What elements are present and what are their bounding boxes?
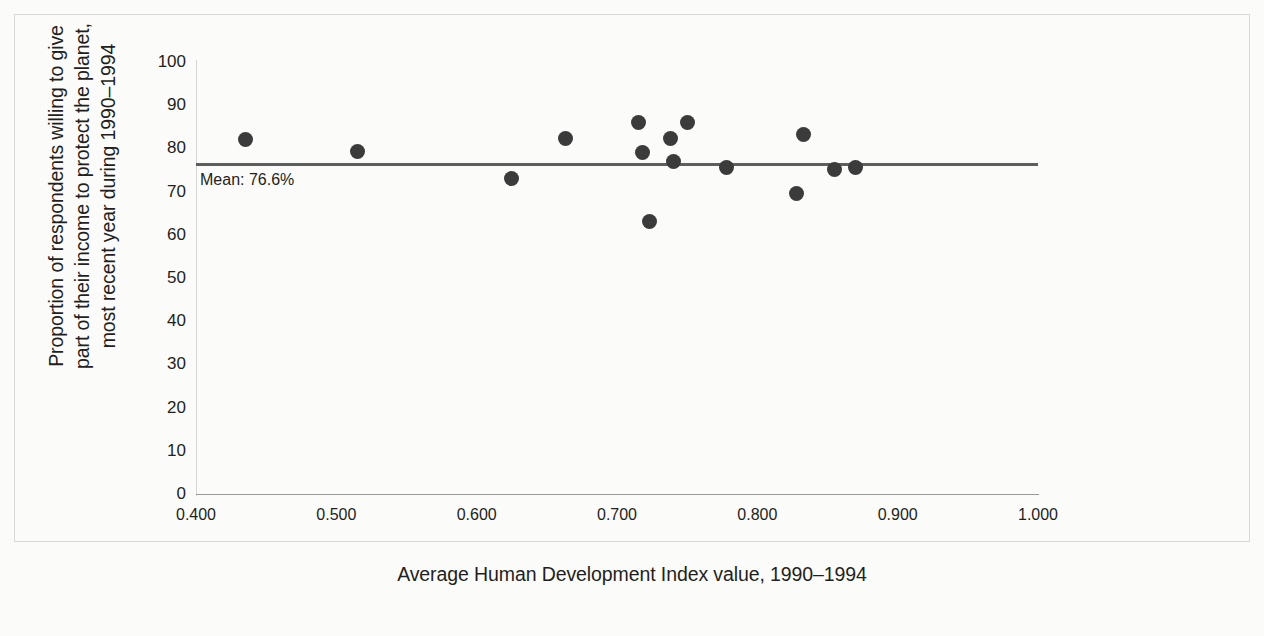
y-tick-label: 80: [140, 138, 186, 158]
chart-figure: Proportion of respondents willing to giv…: [0, 0, 1264, 636]
x-tick-label: 0.500: [316, 506, 356, 524]
mean-reference-line: [196, 163, 1038, 166]
data-point: [238, 132, 253, 147]
y-tick-label: 10: [140, 441, 186, 461]
data-point: [350, 144, 365, 159]
x-tick-label: 0.600: [457, 506, 497, 524]
data-point: [663, 131, 678, 146]
plot-area: Mean: 76.6%: [196, 62, 1038, 494]
data-point: [558, 131, 573, 146]
y-axis-title-text: Proportion of respondents willing to giv…: [43, 23, 121, 369]
data-point: [796, 127, 811, 142]
x-tick-label: 0.400: [176, 506, 216, 524]
x-tick-label: 0.900: [878, 506, 918, 524]
x-axis-tick-labels: 0.4000.5000.6000.7000.8000.9001.000: [196, 506, 1038, 530]
y-tick-label: 30: [140, 354, 186, 374]
data-point: [827, 162, 842, 177]
y-tick-label: 40: [140, 311, 186, 331]
data-point: [719, 160, 734, 175]
data-point: [635, 145, 650, 160]
data-point: [504, 171, 519, 186]
data-point: [680, 115, 695, 130]
mean-line-label: Mean: 76.6%: [200, 171, 294, 189]
x-tick-label: 0.700: [597, 506, 637, 524]
data-point: [631, 115, 646, 130]
data-point: [642, 214, 657, 229]
y-axis-title: Proportion of respondents willing to giv…: [52, 0, 112, 426]
data-point: [789, 186, 804, 201]
y-tick-label: 50: [140, 268, 186, 288]
y-tick-label: 70: [140, 182, 186, 202]
x-axis-title: Average Human Development Index value, 1…: [0, 563, 1264, 586]
y-tick-label: 0: [140, 484, 186, 504]
y-tick-label: 90: [140, 95, 186, 115]
y-axis-tick-labels: 1009080706050403020100: [134, 62, 186, 494]
data-point: [666, 154, 681, 169]
y-tick-label: 60: [140, 225, 186, 245]
data-point: [848, 160, 863, 175]
y-tick-label: 100: [140, 52, 186, 72]
x-tick-label: 1.000: [1018, 506, 1058, 524]
y-tick-label: 20: [140, 398, 186, 418]
x-axis-line: [196, 494, 1039, 495]
x-tick-label: 0.800: [737, 506, 777, 524]
